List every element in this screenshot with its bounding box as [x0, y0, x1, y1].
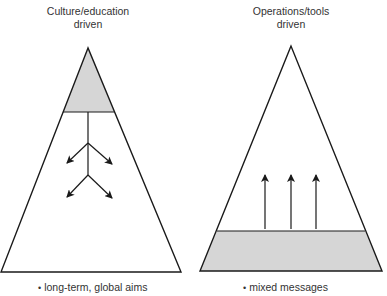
arrow-down-right-icon — [88, 143, 112, 164]
arrow-down-left-icon — [67, 143, 88, 163]
right-caption: •mixed messages — [243, 281, 328, 293]
right-caption-text: mixed messages — [249, 281, 328, 293]
bullet-icon: • — [38, 283, 41, 293]
right-shaded-bottom — [200, 231, 382, 271]
arrow-down-left-icon — [67, 175, 88, 197]
diagram-canvas — [0, 0, 387, 296]
arrow-down-right-icon — [88, 175, 112, 198]
bullet-icon: • — [243, 283, 246, 293]
right-up-arrows — [265, 175, 316, 229]
left-caption: •long-term, global aims — [38, 281, 147, 293]
right-pyramid — [200, 46, 382, 271]
left-pyramid — [1, 48, 181, 272]
left-shaded-top — [63, 48, 114, 112]
left-branch-arrows — [67, 143, 112, 198]
left-caption-text: long-term, global aims — [44, 281, 147, 293]
